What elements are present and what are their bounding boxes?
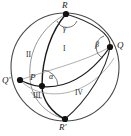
region-label-three: III — [33, 92, 41, 100]
region-label-four: IV — [75, 89, 83, 97]
point-label-P: P — [30, 73, 36, 82]
spherical-geometry-figure: R Q Q' P R' α β γ I II III IV — [0, 0, 131, 136]
point-label-R: R — [62, 1, 68, 10]
region-label-two: II — [26, 51, 31, 59]
point-P — [39, 83, 45, 89]
point-Q — [107, 44, 113, 50]
point-label-Qprime: Q' — [2, 76, 10, 85]
point-R — [63, 11, 69, 17]
angle-label-beta: β — [95, 41, 99, 49]
point-Qprime — [17, 77, 23, 83]
angle-label-gamma: γ — [63, 25, 66, 33]
sphere-diagram-canvas — [0, 0, 131, 136]
point-label-Q: Q — [117, 41, 124, 50]
region-label-one: I — [63, 45, 66, 53]
angle-label-alpha: α — [49, 73, 53, 81]
point-label-Rprime: R' — [59, 123, 66, 132]
